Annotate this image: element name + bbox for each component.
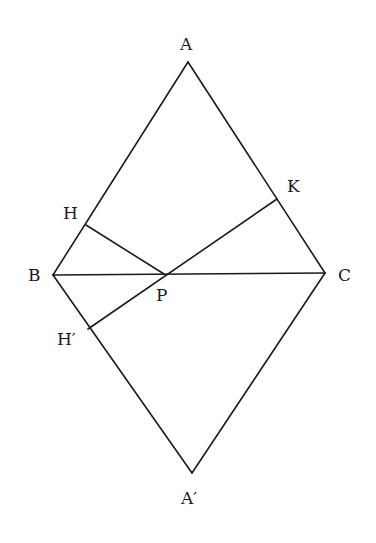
segment-H-prime-K bbox=[88, 199, 277, 329]
label-A: A bbox=[179, 34, 193, 54]
diagram-segments bbox=[53, 62, 325, 473]
label-H-prime: H′ bbox=[57, 329, 76, 349]
label-H: H bbox=[63, 203, 78, 223]
label-A-prime: A′ bbox=[180, 488, 197, 508]
segment-A-B bbox=[53, 62, 188, 275]
segment-B-C bbox=[53, 273, 325, 275]
segment-C-A-prime bbox=[192, 273, 325, 473]
rhombus-diagram: A B C A′ P H H′ K bbox=[0, 0, 376, 543]
label-P: P bbox=[156, 285, 167, 305]
label-B: B bbox=[28, 265, 41, 285]
label-K: K bbox=[287, 176, 300, 196]
label-C: C bbox=[338, 265, 351, 285]
segment-H-P bbox=[86, 225, 164, 274]
segment-A-C bbox=[188, 62, 325, 273]
diagram-labels: A B C A′ P H H′ K bbox=[28, 34, 351, 508]
